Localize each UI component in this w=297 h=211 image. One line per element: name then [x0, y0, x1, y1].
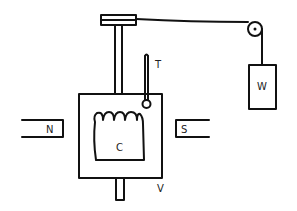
weight-label: W [257, 81, 267, 92]
thermometer-label: T [154, 59, 162, 70]
bottom-shaft [116, 178, 124, 200]
pulley-axle [254, 28, 257, 31]
thermometer-bulb [143, 100, 151, 108]
apparatus-diagram: W T C V N S [0, 0, 297, 211]
coil-label: C [116, 142, 123, 153]
north-magnet [22, 120, 63, 137]
vessel-label: V [157, 183, 164, 194]
thermometer-top [145, 55, 148, 57]
south-label: S [181, 124, 187, 135]
string [136, 19, 248, 22]
north-label: N [46, 124, 53, 135]
